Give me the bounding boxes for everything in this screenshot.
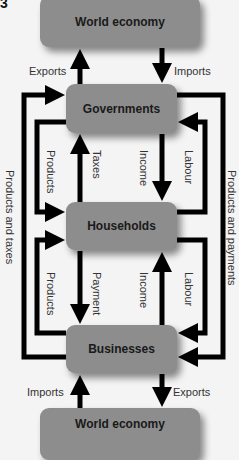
label-products-gov-hh: Products: [45, 150, 57, 193]
node-governments: Governments: [66, 84, 177, 133]
label-income-gov-hh: Income: [138, 150, 150, 186]
node-businesses: Businesses: [66, 325, 177, 373]
node-world-economy-bottom-label: World economy: [75, 417, 165, 431]
label-products-and-taxes: Products and taxes: [4, 170, 16, 264]
label-payment: Payment: [91, 272, 103, 315]
label-labour-hh-bus: Labour: [183, 272, 195, 306]
label-income-bus-hh: Income: [138, 272, 150, 308]
arrow-products-and-taxes: [24, 95, 66, 357]
node-world-economy-bottom: World economy: [40, 408, 200, 460]
label-exports-top: Exports: [29, 65, 66, 77]
label-labour-hh-gov: Labour: [183, 150, 195, 184]
node-households: Households: [66, 202, 177, 250]
label-taxes: Taxes: [91, 150, 103, 179]
node-world-economy-top: World economy: [40, 0, 200, 47]
label-imports-top: Imports: [174, 65, 211, 77]
arrow-products-and-payments: [177, 95, 223, 357]
label-products-bus-hh: Products: [45, 272, 57, 315]
label-products-and-payments: Products and payments: [226, 170, 238, 286]
label-imports-bottom: Imports: [27, 386, 64, 398]
label-exports-bottom: Exports: [173, 386, 210, 398]
